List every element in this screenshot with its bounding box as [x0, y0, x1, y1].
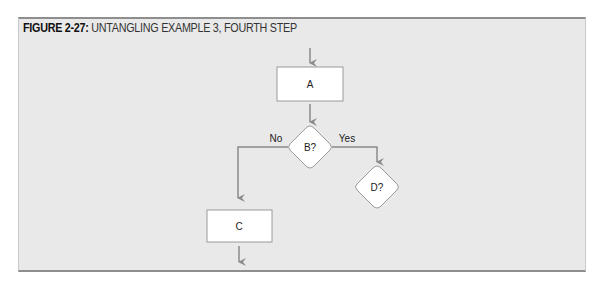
- edge-b-no: No: [238, 133, 288, 198]
- process-node-c: C: [207, 210, 272, 242]
- decision-node-b: B?: [289, 126, 332, 168]
- edge-label-no: No: [270, 133, 283, 144]
- node-d-label: D?: [371, 182, 384, 193]
- node-a-label: A: [307, 79, 314, 90]
- flowchart: A B? No Yes D? C: [0, 0, 603, 285]
- decision-node-d: D?: [356, 166, 399, 208]
- node-b-label: B?: [304, 142, 317, 153]
- edge-b-yes: Yes: [332, 133, 377, 162]
- edge-label-yes: Yes: [339, 133, 355, 144]
- node-c-label: C: [235, 221, 242, 232]
- process-node-a: A: [277, 67, 343, 101]
